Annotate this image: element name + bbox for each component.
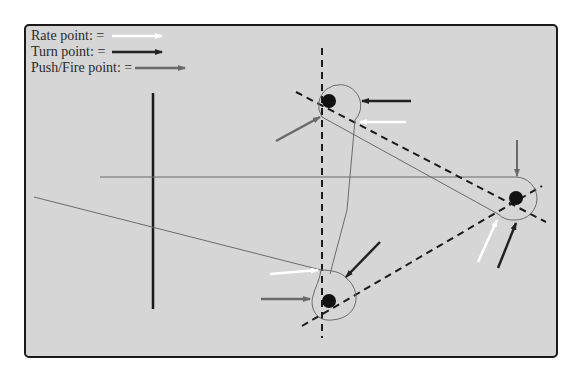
push-fire-arrow-top [276, 117, 320, 141]
waypoint-top [322, 94, 336, 108]
legend-label-turn: Turn point: = [31, 44, 105, 59]
course-line-incoming [34, 197, 321, 270]
legend-label-rate: Rate point: = [31, 28, 104, 43]
turn-arrow-bottom [346, 242, 380, 277]
waypoint-bottom [322, 294, 336, 308]
legend-item-turn: Turn point: = [31, 44, 132, 60]
legend-item-rate: Rate point: = [31, 28, 132, 44]
legend-item-push-fire: Push/Fire point: = [31, 60, 132, 76]
legend-label-push-fire: Push/Fire point: = [31, 60, 132, 75]
rate-arrow-bottom [270, 270, 318, 274]
turn-loop-top [319, 85, 361, 274]
rate-arrow-right [478, 220, 497, 262]
dashed-line-top-right [296, 92, 546, 222]
dashed-line-bottom-right [302, 186, 542, 326]
waypoint-right [509, 191, 523, 205]
turn-loop-bottom [312, 270, 356, 320]
turn-arrow-right [498, 223, 516, 268]
legend: Rate point: = Turn point: = Push/Fire po… [31, 28, 132, 76]
